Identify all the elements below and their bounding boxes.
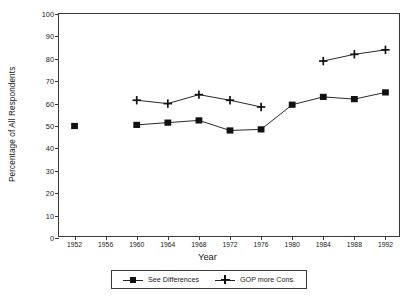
data-point-marker (258, 126, 265, 132)
y-tick-label: 40 (46, 144, 59, 153)
data-point-marker (320, 94, 327, 100)
y-tick-label: 20 (46, 189, 59, 198)
chart-legend: See Differences GOP more Cons. (111, 270, 307, 289)
data-point-marker (164, 120, 171, 126)
x-axis-title: Year (0, 251, 415, 262)
data-point-marker (289, 102, 296, 108)
plus-marker-icon (215, 275, 235, 284)
x-tick-label: 1968 (191, 241, 206, 248)
y-tick-label: 90 (46, 32, 59, 41)
x-tick-label: 1956 (98, 241, 113, 248)
plot-area: 0102030405060708090100 19521956196019641… (58, 13, 400, 237)
y-tick-label: 50 (46, 122, 59, 131)
y-tick-label: 70 (46, 77, 59, 86)
data-point-marker (381, 46, 389, 54)
data-point-marker (226, 96, 234, 104)
x-tick-label: 1964 (160, 241, 175, 248)
x-tick-label: 1960 (129, 241, 144, 248)
legend-label: See Differences (148, 275, 199, 284)
data-point-marker (257, 103, 265, 111)
x-tick-label: 1952 (67, 241, 82, 248)
y-tick-label: 100 (42, 10, 59, 19)
y-tick-label: 30 (46, 166, 59, 175)
data-point-marker (196, 117, 203, 123)
data-point-marker (227, 127, 234, 133)
data-point-marker (350, 50, 358, 58)
y-tick-label: 10 (46, 211, 59, 220)
square-marker-icon (123, 275, 143, 284)
data-point-marker (71, 123, 78, 129)
x-tick-label: 1972 (222, 241, 237, 248)
y-tick-label: 0 (50, 234, 59, 243)
legend-item-see-differences: See Differences (123, 275, 199, 284)
data-point-marker (382, 89, 389, 95)
y-tick-label: 60 (46, 99, 59, 108)
data-point-marker (351, 96, 358, 102)
data-point-marker (195, 90, 203, 98)
x-tick-label: 1992 (378, 241, 393, 248)
x-tick-label: 1984 (316, 241, 331, 248)
legend-label: GOP more Cons. (240, 275, 295, 284)
data-point-marker (133, 96, 141, 104)
y-axis-title: Percentage of All Respondents (4, 36, 20, 212)
x-tick-label: 1988 (347, 241, 362, 248)
data-point-marker (164, 99, 172, 107)
data-point-marker (133, 122, 140, 128)
series-line (137, 92, 386, 130)
data-point-marker (319, 57, 327, 65)
y-tick-label: 80 (46, 54, 59, 63)
series-layer (59, 14, 401, 238)
chart-figure: Percentage of All Respondents 0102030405… (0, 0, 415, 297)
x-tick-label: 1976 (254, 241, 269, 248)
legend-item-gop-more-cons: GOP more Cons. (215, 275, 295, 284)
x-tick-label: 1980 (285, 241, 300, 248)
